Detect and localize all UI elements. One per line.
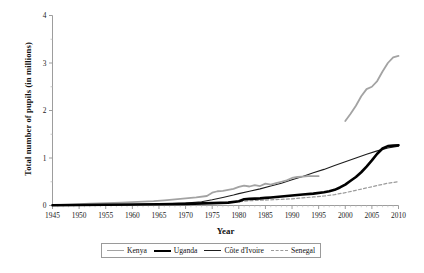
x-tick-label: 1960: [125, 211, 140, 220]
legend-item-uganda[interactable]: Uganda: [154, 246, 198, 255]
x-tick-label: 1980: [231, 211, 246, 220]
legend-item-senegal[interactable]: Senegal: [271, 246, 315, 255]
chart-figure: Total number of pupils (in millions) 012…: [0, 0, 424, 273]
series-line-kenya: [53, 176, 319, 205]
y-tick-label: 1: [43, 154, 47, 163]
legend-item-kenya[interactable]: Kenya: [107, 246, 147, 255]
x-tick-label: 2000: [338, 211, 353, 220]
legend-item-cote-divoire[interactable]: Côte d'Ivoire: [204, 246, 264, 255]
chart-legend: Kenya Uganda Côte d'Ivoire Senegal: [101, 243, 321, 258]
series-line-kenya: [345, 56, 398, 121]
legend-swatch-cote-divoire-icon: [204, 250, 221, 251]
x-axis-title: Year: [52, 226, 399, 236]
legend-label-cote-divoire: Côte d'Ivoire: [224, 246, 264, 255]
legend-swatch-kenya-icon: [107, 250, 124, 251]
series-line-c-te-d-ivoire: [53, 146, 399, 205]
x-tick-label: 1965: [152, 211, 167, 220]
legend-label-senegal: Senegal: [291, 246, 315, 255]
x-tick-label: 1970: [178, 211, 193, 220]
y-tick-label: 3: [43, 59, 47, 68]
x-tick-label: 2010: [391, 211, 406, 220]
legend-swatch-uganda-icon: [154, 250, 171, 252]
y-tick-label: 0: [43, 201, 47, 210]
x-tick-label: 1955: [98, 211, 113, 220]
x-tick-label: 1945: [45, 211, 60, 220]
x-tick-label: 1985: [258, 211, 273, 220]
legend-label-kenya: Kenya: [127, 246, 147, 255]
x-tick-label: 2005: [364, 211, 379, 220]
x-tick-label: 1990: [285, 211, 300, 220]
x-tick-label: 1975: [205, 211, 220, 220]
x-tick-label: 1950: [72, 211, 87, 220]
x-tick-label: 1995: [311, 211, 326, 220]
legend-label-uganda: Uganda: [174, 246, 198, 255]
legend-swatch-senegal-icon: [271, 250, 288, 251]
y-tick-label: 4: [43, 11, 47, 20]
y-tick-label: 2: [43, 106, 47, 115]
series-line-uganda: [53, 145, 399, 205]
